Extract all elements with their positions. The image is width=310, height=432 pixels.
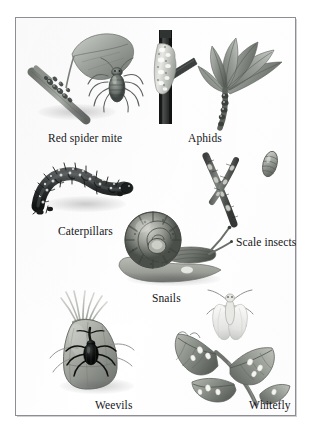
enlarged-whitefly <box>207 290 253 341</box>
specimen-weevils <box>44 290 149 398</box>
enlarged-scale <box>260 150 280 179</box>
aphids-illustration <box>142 28 202 128</box>
caption-aphids: Aphids <box>188 132 222 145</box>
whitefly-illustration <box>164 286 302 408</box>
caption-scale-insects: Scale insects <box>236 236 296 249</box>
weevils-illustration <box>44 290 149 398</box>
caption-red-spider-mite: Red spider mite <box>48 132 122 145</box>
specimen-red-spider-mite <box>24 24 154 126</box>
caption-whitefly: Whitefly <box>249 399 291 412</box>
leaf-spray-illustration <box>196 28 301 133</box>
specimen-snails <box>111 206 236 290</box>
specimen-whitefly <box>164 286 302 408</box>
specimen-aphids <box>142 28 202 128</box>
caption-caterpillars: Caterpillars <box>58 225 113 238</box>
snails-illustration <box>111 206 236 290</box>
specimen-leaf-spray <box>196 28 301 133</box>
red-spider-mite-illustration <box>24 24 154 126</box>
illustration-page: Red spider mite <box>0 0 310 432</box>
plate-frame: Red spider mite <box>15 17 296 416</box>
caption-weevils: Weevils <box>95 399 132 412</box>
